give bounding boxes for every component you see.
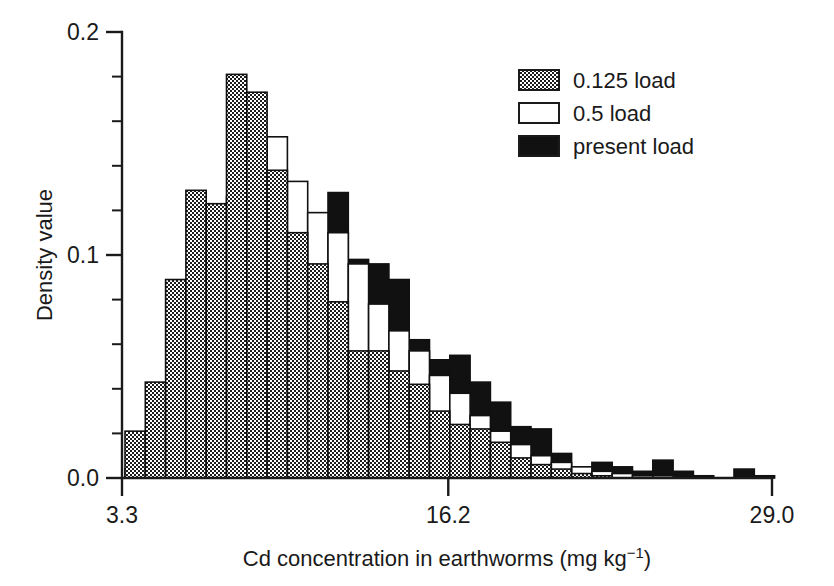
y-axis-tick-labels: 0.00.10.2 — [67, 19, 99, 491]
histogram-bar — [206, 204, 226, 478]
histogram-bar — [125, 431, 145, 478]
x-axis-title-superscript: −1 — [627, 544, 644, 561]
x-axis-title-main: Cd concentration in earthworms (mg kg — [243, 546, 627, 571]
histogram-bar — [369, 351, 389, 478]
histogram-bar — [470, 429, 490, 478]
histogram-bar — [227, 74, 247, 478]
histogram-bar — [389, 371, 409, 478]
histogram-bar — [328, 302, 348, 478]
legend-label: 0.125 load — [573, 68, 676, 93]
y-axis-title: Density value — [32, 189, 57, 321]
histogram-bar — [511, 458, 531, 478]
y-tick-label: 0.1 — [67, 242, 99, 268]
legend-swatch — [519, 70, 559, 90]
histogram-bar — [267, 170, 287, 478]
x-tick-label: 29.0 — [750, 502, 795, 528]
histogram-bar — [409, 384, 429, 478]
histogram-bar — [551, 469, 571, 478]
histogram-figure: 0.00.10.2 3.316.229.0 Density value Cd c… — [0, 0, 834, 586]
histogram-bar — [734, 469, 754, 478]
x-axis-ticks — [122, 478, 772, 496]
histogram-bar — [287, 233, 307, 478]
x-axis-title-tail: ) — [644, 546, 651, 571]
x-tick-label: 3.3 — [106, 502, 138, 528]
histogram-bar — [247, 92, 267, 478]
legend-label: 0.5 load — [573, 101, 651, 126]
histogram-bar — [186, 190, 206, 478]
x-tick-label: 16.2 — [426, 502, 471, 528]
y-tick-label: 0.0 — [67, 465, 99, 491]
legend-swatch — [519, 136, 559, 156]
legend: 0.125 load0.5 loadpresent load — [519, 68, 694, 159]
legend-label: present load — [573, 134, 694, 159]
histogram-bar — [490, 442, 510, 478]
histogram-bar — [430, 411, 450, 478]
histogram-bar — [308, 264, 328, 478]
histogram-bar — [348, 351, 368, 478]
legend-swatch — [519, 103, 559, 123]
y-tick-label: 0.2 — [67, 19, 99, 45]
histogram-svg: 0.00.10.2 3.316.229.0 Density value Cd c… — [0, 0, 834, 586]
x-axis-title: Cd concentration in earthworms (mg kg−1) — [243, 544, 651, 571]
histogram-bar — [145, 382, 165, 478]
y-axis-ticks — [106, 32, 122, 478]
histogram-bar — [450, 424, 470, 478]
histogram-bar — [531, 465, 551, 478]
x-axis-tick-labels: 3.316.229.0 — [106, 502, 794, 528]
histogram-bar — [166, 280, 186, 478]
